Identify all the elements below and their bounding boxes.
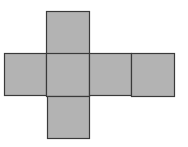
cube-net-diagram <box>0 0 188 147</box>
face-square-top <box>47 12 90 55</box>
face-square-bottom <box>48 97 90 139</box>
face-square-row-2 <box>47 54 90 97</box>
face-square-row-1 <box>5 54 47 96</box>
cube-net-faces <box>5 12 175 139</box>
face-square-row-4 <box>132 54 175 97</box>
face-square-row-3 <box>90 54 132 96</box>
